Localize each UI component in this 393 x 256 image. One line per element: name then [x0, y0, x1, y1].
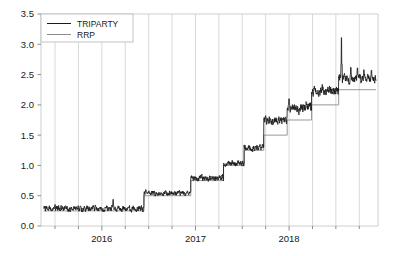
- y-tick-label: 1.0: [21, 160, 34, 171]
- x-tick-label: 2017: [185, 233, 206, 244]
- y-tick-label: 2.0: [21, 99, 34, 110]
- y-tick-label: 3.0: [21, 39, 34, 50]
- repo-rates-line-chart: 0.00.51.01.52.02.53.03.5 201620172018 TR…: [0, 0, 393, 256]
- legend-label-triparty: TRIPARTY: [77, 19, 119, 29]
- legend-label-rrp: RRP: [77, 30, 95, 40]
- x-tick-label: 2018: [278, 233, 299, 244]
- chart-legend: TRIPARTYRRP: [41, 14, 133, 42]
- y-tick-label: 1.5: [21, 130, 34, 141]
- x-tick-label: 2016: [91, 233, 112, 244]
- y-tick-label: 0.5: [21, 190, 34, 201]
- chart-container: 0.00.51.01.52.02.53.03.5 201620172018 TR…: [0, 0, 393, 256]
- y-tick-label: 0.0: [21, 220, 34, 231]
- y-tick-label: 2.5: [21, 69, 34, 80]
- y-tick-label: 3.5: [21, 8, 34, 19]
